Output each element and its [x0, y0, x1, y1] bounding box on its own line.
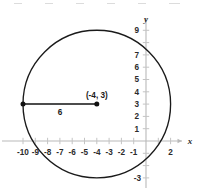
- x-tick-label-neg9: -9: [32, 148, 40, 157]
- x-tick-label-neg3: -3: [105, 148, 113, 157]
- y-tick-label-4: 4: [134, 88, 139, 97]
- radius-endpoint-dot: [21, 102, 26, 107]
- y-tick-label-neg3: -3: [134, 174, 142, 183]
- x-tick-label-neg5: -5: [81, 148, 89, 157]
- x-tick-label-neg8: -8: [44, 148, 52, 157]
- coordinate-plane-svg: y x -10 -9 -8 -7 -6 -5 -4 -3 -2 -1 2 9 7…: [0, 0, 197, 194]
- y-tick-label-2: 2: [134, 112, 139, 121]
- x-tick-label-neg7: -7: [56, 148, 64, 157]
- y-axis-label: y: [143, 14, 149, 24]
- y-tick-label-5: 5: [134, 75, 139, 84]
- circle-graph-figure: y x -10 -9 -8 -7 -6 -5 -4 -3 -2 -1 2 9 7…: [0, 0, 197, 194]
- radius-length-label: 6: [58, 108, 63, 117]
- x-axis-arrowhead: [178, 139, 183, 143]
- x-tick-label-neg2: -2: [118, 148, 126, 157]
- axes-group: [2, 18, 182, 188]
- x-tick-label-neg4: -4: [93, 148, 101, 157]
- y-tick-label-7: 7: [134, 51, 139, 60]
- x-tick-label-neg6: -6: [69, 148, 77, 157]
- x-tick-label-neg10: -10: [17, 148, 29, 157]
- x-tick-label-pos2: 2: [168, 148, 173, 157]
- center-point-label: (-4, 3): [86, 91, 108, 100]
- x-tick-label-neg1: -1: [130, 148, 138, 157]
- y-tick-label-3: 3: [134, 100, 139, 109]
- y-tick-label-1: 1: [134, 125, 139, 134]
- y-tick-label-9: 9: [134, 26, 139, 35]
- y-tick-labels: 9 7 6 5 4 3 2 1 -3: [134, 26, 142, 183]
- y-tick-label-6: 6: [134, 63, 139, 72]
- x-axis-label: x: [187, 136, 193, 146]
- center-point-dot: [94, 102, 99, 107]
